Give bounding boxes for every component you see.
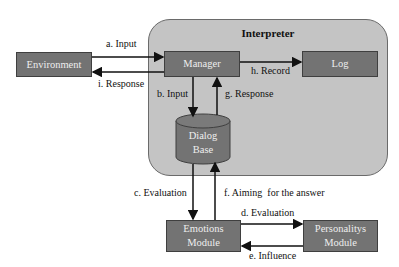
edge-g-label: g. Response xyxy=(225,88,273,99)
edge-e-label: e. Influence xyxy=(249,250,296,261)
arrows-layer xyxy=(0,0,399,267)
edge-a-label: a. Input xyxy=(106,38,137,49)
edge-h-label: h. Record xyxy=(251,65,290,76)
edge-b-label: b. Input xyxy=(157,88,188,99)
edge-c-label: c. Evaluation xyxy=(134,187,187,198)
edge-f-label: f. Aiming for the answer xyxy=(224,187,325,198)
edge-d-label: d. Evaluation xyxy=(241,207,294,218)
edge-i-label: i. Response xyxy=(98,78,144,89)
